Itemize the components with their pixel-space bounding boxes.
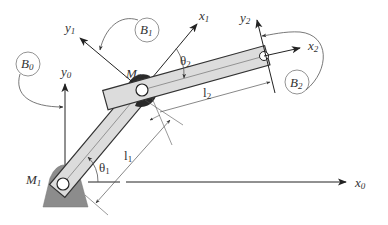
- x2-axis: [264, 48, 300, 56]
- theta2-label: θ2: [180, 53, 191, 69]
- x1-label: x1: [198, 8, 209, 24]
- m2-joint: [136, 84, 148, 96]
- m1-joint: [57, 178, 69, 190]
- l1-label: l1: [124, 148, 132, 164]
- theta1-label: θ1: [99, 160, 110, 176]
- l2-label: l2: [203, 85, 211, 101]
- y1-label: y1: [63, 20, 75, 36]
- frame-b2-label: B2: [290, 75, 303, 91]
- frame-b0-label: B0: [21, 56, 34, 72]
- y2-label: y2: [238, 10, 251, 26]
- l1-dimension: [85, 100, 183, 215]
- x0-label: x0: [354, 175, 366, 191]
- frame-b1-label: B1: [140, 22, 152, 38]
- x2-label: x2: [307, 38, 319, 54]
- m1-label: M1: [25, 172, 41, 188]
- robot-arm-diagram: B0 B1 B2 x0 y0 x1 y1 x2 y2 M1 M2 θ1 θ2 l…: [0, 0, 388, 225]
- y0-label: y0: [59, 64, 72, 80]
- m2-label: M2: [125, 66, 142, 82]
